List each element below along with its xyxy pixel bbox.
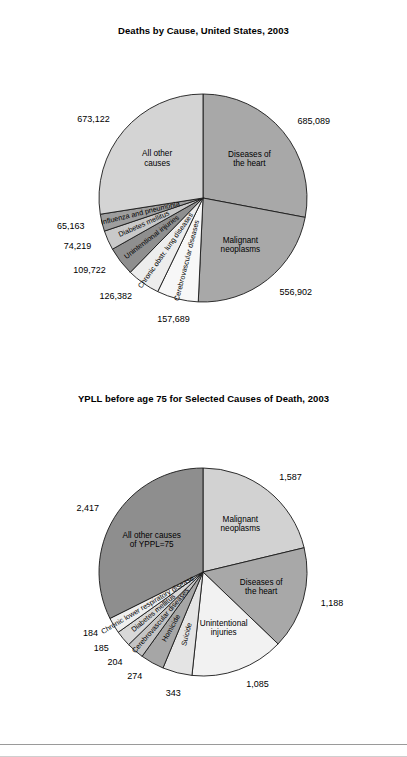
slice-value-label: 157,689 <box>157 314 190 324</box>
slice-value-label: 74,219 <box>64 241 92 251</box>
slice-label: Diseases ofthe heart <box>240 578 284 596</box>
slice-value-label: 185 <box>94 643 109 653</box>
slice-value-label: 685,089 <box>297 116 330 126</box>
slice-label: Diseases ofthe heart <box>228 150 272 168</box>
slice-value-label: 274 <box>127 671 142 681</box>
footer-divider <box>0 744 407 745</box>
pie-chart-deaths: Diseases ofthe heart685,089Malignantneop… <box>0 0 407 375</box>
pie-chart-ypll: Malignantneoplasms1,587Diseases ofthe he… <box>0 375 407 745</box>
slice-value-label: 1,188 <box>321 598 344 608</box>
slice-value-label: 184 <box>83 628 98 638</box>
slice-label: Malignantneoplasms <box>221 236 261 254</box>
slice-value-label: 126,382 <box>99 291 132 301</box>
slice-value-label: 109,722 <box>73 265 106 275</box>
slice-value-label: 65,163 <box>57 221 85 231</box>
slice-value-label: 2,417 <box>76 503 99 513</box>
ypll-chart: YPLL before age 75 for Selected Causes o… <box>0 375 407 745</box>
slice-value-label: 673,122 <box>77 114 110 124</box>
slice-label: All othercauses <box>142 149 172 167</box>
slice-value-label: 1,587 <box>279 472 302 482</box>
slice-label: All other causesof YPPL=75 <box>123 531 181 549</box>
slice-value-label: 343 <box>166 688 181 698</box>
slice-value-label: 1,085 <box>246 679 269 689</box>
deaths-by-cause-chart: Deaths by Cause, United States, 2003 Dis… <box>0 0 407 375</box>
slice-value-label: 556,902 <box>279 287 312 297</box>
slice-label: Malignantneoplasms <box>221 515 261 533</box>
slice-value-label: 204 <box>108 657 123 667</box>
